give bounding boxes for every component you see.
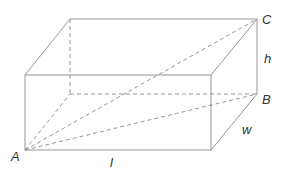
hidden-left-bottom-edge xyxy=(25,94,70,150)
label-B: B xyxy=(262,92,271,107)
top-left-edge xyxy=(25,19,70,75)
space-diagonal-AC xyxy=(25,19,257,150)
base-diagonal-AB xyxy=(25,94,257,150)
front-face xyxy=(25,75,211,150)
box-diagram: A B C h w l xyxy=(0,0,287,178)
label-height: h xyxy=(264,51,271,66)
label-C: C xyxy=(262,12,272,27)
label-length: l xyxy=(110,155,114,170)
label-width: w xyxy=(242,122,253,137)
top-right-edge xyxy=(211,19,257,75)
label-A: A xyxy=(10,149,20,164)
